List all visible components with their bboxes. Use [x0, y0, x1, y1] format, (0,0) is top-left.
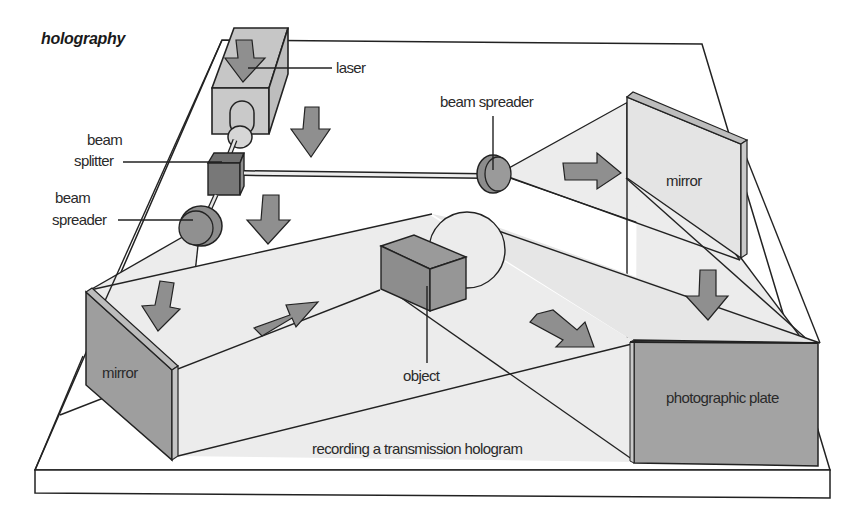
beam-spreader-left-label-line2: spreader [52, 211, 107, 228]
mirror-right-label: mirror [666, 172, 702, 189]
beam-spreader-right-label: beam spreader [440, 93, 534, 110]
laser-label: laser [336, 59, 366, 76]
beam-splitter-label-line2: splitter [74, 152, 114, 169]
mirror-left-label: mirror [102, 364, 138, 381]
holography-diagram: mirror mirror photographic plate object [0, 0, 868, 523]
beam-spreader-left-label-line1: beam [55, 189, 90, 206]
diagram-caption: recording a transmission hologram [312, 440, 522, 457]
beam-splitter-label-line1: beam [87, 131, 122, 148]
object-label: object [403, 367, 441, 384]
diagram-title: holography [41, 30, 127, 47]
photographic-plate-label: photographic plate [666, 389, 779, 406]
photographic-plate: photographic plate [630, 340, 818, 466]
